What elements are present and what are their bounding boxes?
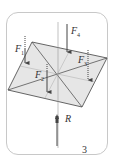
figure-number: 3 [82,144,87,155]
label-r: R [65,114,71,124]
label-f1: F1 [15,44,24,56]
label-f3: F3 [78,55,87,67]
label-f2: F2 [35,70,44,82]
plate-force-diagram [0,0,114,158]
label-f4: F4 [71,26,80,38]
